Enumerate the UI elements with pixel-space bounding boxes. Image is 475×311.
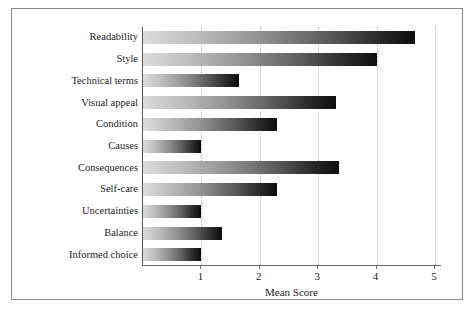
bar [143,74,239,87]
x-tick-label: 2 [256,270,262,283]
y-tick-label: Style [12,53,138,65]
y-tick-label: Visual appeal [12,97,138,109]
x-tick-mark [259,266,260,269]
y-tick-label: Balance [12,227,138,239]
figure-frame: ReadabilityStyleTechnical termsVisual ap… [11,8,463,300]
bar-row [143,136,442,158]
x-tick-mark [376,266,377,269]
y-tick-label: Consequences [12,162,138,174]
bar-row [143,70,442,92]
bar-row [143,223,442,245]
bar [143,96,336,109]
bar-row [143,201,442,223]
bar [143,248,201,261]
y-tick-label: Informed choice [12,249,138,261]
bar [143,205,201,218]
bar-row [143,179,442,201]
y-tick-label: Readability [12,31,138,43]
bar-row [143,114,442,136]
x-axis-title: Mean Score [142,286,441,298]
bar [143,31,415,44]
y-tick-label: Technical terms [12,75,138,87]
plot-area [142,27,441,266]
bar-row [143,92,442,114]
x-tick-label: 3 [314,270,320,283]
bar-row [143,244,442,266]
x-tick-label: 5 [431,270,437,283]
x-tick-mark [317,266,318,269]
bar [143,161,339,174]
y-tick-label: Causes [12,140,138,152]
y-tick-label: Self-care [12,183,138,195]
x-tick-label: 1 [198,270,204,283]
bar-row [143,49,442,71]
bar [143,118,277,131]
bar [143,140,201,153]
x-tick-mark [434,266,435,269]
bar [143,53,377,66]
bar [143,227,222,240]
bar-row [143,27,442,49]
bar [143,183,277,196]
y-tick-label: Uncertainties [12,205,138,217]
figure: ReadabilityStyleTechnical termsVisual ap… [0,0,475,311]
bar-series [143,27,441,265]
y-tick-label: Condition [12,118,138,130]
x-tick-mark [200,266,201,269]
x-tick-label: 4 [373,270,379,283]
bar-row [143,157,442,179]
